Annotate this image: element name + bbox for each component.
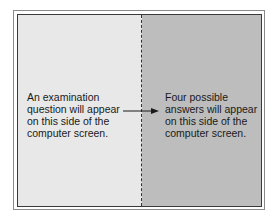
answers-caption: Four possible answers will appear on thi… [165,91,260,139]
question-caption: An examination question will appear on t… [27,91,139,139]
arrow-right-icon [123,107,159,115]
arrow-head [151,108,159,114]
screen-diagram: An examination question will appear on t… [17,14,262,207]
